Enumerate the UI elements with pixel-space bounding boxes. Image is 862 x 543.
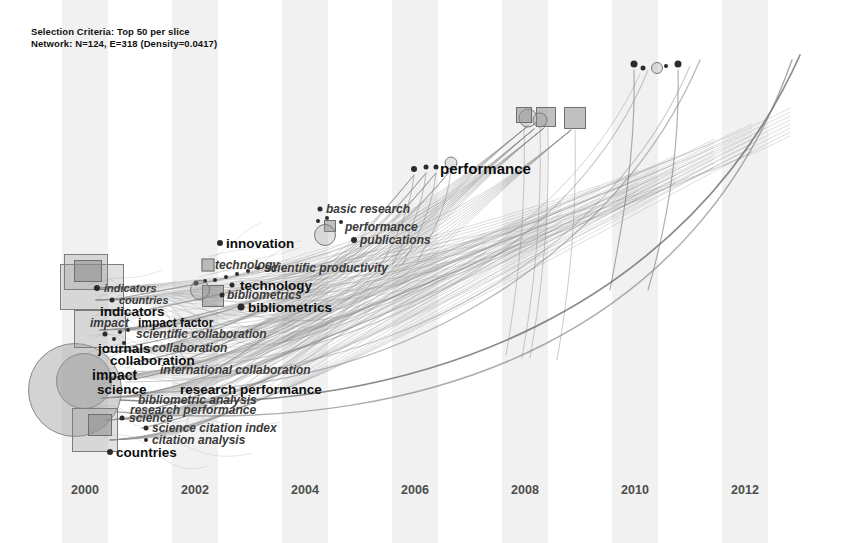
term-label[interactable]: countries (116, 445, 177, 460)
network-node[interactable] (316, 219, 320, 223)
network-node[interactable] (424, 165, 429, 170)
selection-criteria-header: Selection Criteria: Top 50 per slice Net… (31, 26, 217, 49)
term-label[interactable]: indicators (104, 282, 157, 294)
network-node[interactable] (224, 275, 228, 279)
citespace-timeline-figure: indicatorscountriesindicatorsimpactimpac… (0, 0, 862, 543)
term-label[interactable]: publications (360, 233, 431, 247)
network-node[interactable] (230, 283, 235, 288)
network-node[interactable] (213, 278, 217, 282)
year-label-2002: 2002 (181, 483, 209, 497)
network-node[interactable] (235, 272, 239, 276)
network-node[interactable] (339, 220, 343, 224)
network-node[interactable] (144, 426, 149, 431)
network-node[interactable] (110, 298, 115, 303)
year-label-2008: 2008 (511, 483, 539, 497)
network-node[interactable] (675, 61, 682, 68)
network-node[interactable] (74, 260, 102, 282)
network-node[interactable] (103, 332, 108, 337)
selection-criteria-line: Selection Criteria: Top 50 per slice (31, 26, 217, 38)
network-node[interactable] (238, 304, 245, 311)
term-label[interactable]: basic research (326, 202, 410, 216)
network-node[interactable] (144, 438, 148, 442)
network-node[interactable] (651, 62, 663, 74)
network-node[interactable] (94, 285, 100, 291)
term-label[interactable]: international collaboration (160, 363, 311, 377)
network-node[interactable] (314, 224, 336, 246)
year-label-2006: 2006 (401, 483, 429, 497)
term-label[interactable]: bibliometrics (248, 300, 332, 315)
network-node[interactable] (202, 259, 215, 272)
year-label-2004: 2004 (291, 483, 319, 497)
term-label[interactable]: innovation (226, 236, 294, 251)
term-label[interactable]: performance (440, 160, 531, 177)
network-node[interactable] (220, 293, 225, 298)
term-label[interactable]: scientific collaboration (136, 327, 267, 341)
network-node[interactable] (631, 61, 638, 68)
term-label[interactable]: impact (90, 316, 129, 330)
network-node[interactable] (516, 107, 532, 123)
network-node[interactable] (434, 165, 439, 170)
term-label[interactable]: performance (345, 220, 418, 234)
network-node[interactable] (533, 113, 548, 128)
network-node[interactable] (664, 64, 668, 68)
network-node[interactable] (107, 449, 113, 455)
network-node[interactable] (411, 166, 417, 172)
year-label-2012: 2012 (731, 483, 759, 497)
network-node[interactable] (351, 237, 357, 243)
network-node[interactable] (318, 207, 323, 212)
network-node[interactable] (325, 216, 329, 220)
year-label-2010: 2010 (621, 483, 649, 497)
year-label-2000: 2000 (71, 483, 99, 497)
network-node[interactable] (641, 66, 646, 71)
network-node[interactable] (190, 280, 210, 300)
network-node[interactable] (88, 414, 112, 436)
term-label[interactable]: scientific productivity (264, 261, 388, 275)
network-stats-line: Network: N=124, E=318 (Density=0.0417) (31, 38, 217, 50)
network-node[interactable] (217, 240, 223, 246)
network-node[interactable] (564, 107, 586, 129)
network-node[interactable] (120, 416, 125, 421)
network-nodes-layer: indicatorscountriesindicatorsimpactimpac… (0, 0, 862, 543)
network-node[interactable] (118, 330, 122, 334)
